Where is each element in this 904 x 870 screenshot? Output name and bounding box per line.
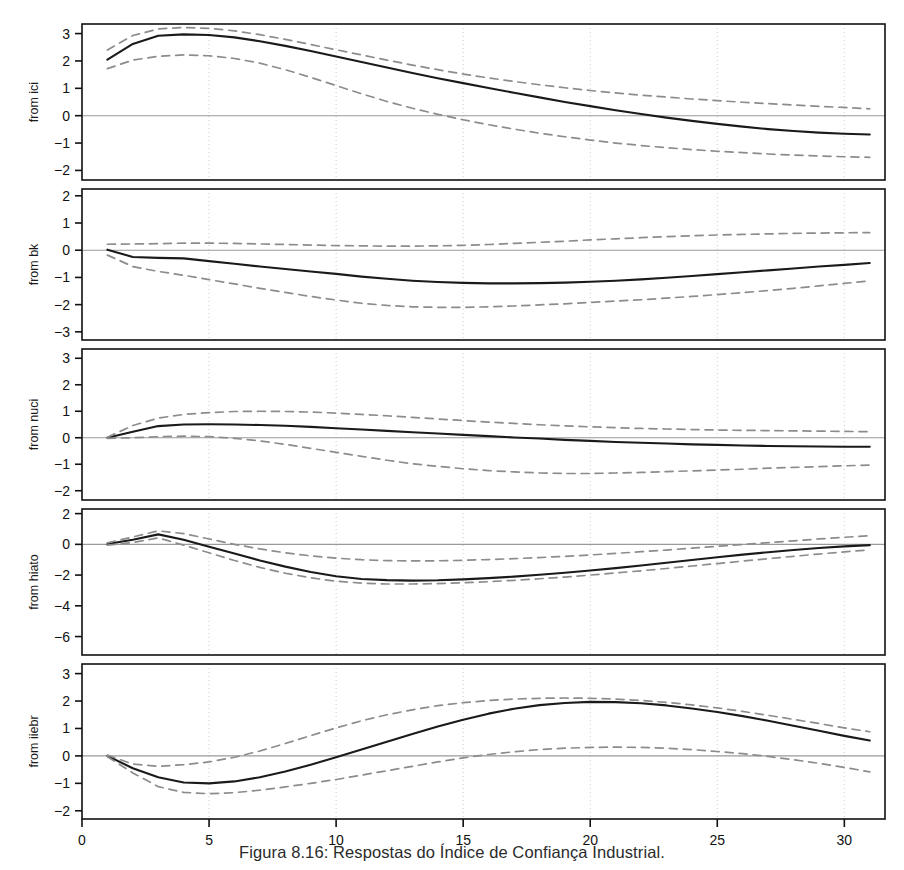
y-tick-label: 3 (62, 26, 70, 42)
y-tick-label: 3 (62, 350, 70, 366)
panel-label-from-iiebr: from iiebr (27, 715, 41, 767)
y-tick-label: −1 (54, 775, 70, 791)
y-tick-label: −2 (54, 162, 70, 178)
y-tick-label: 0 (62, 748, 70, 764)
y-tick-label: 0 (62, 536, 70, 552)
y-tick-label: −4 (54, 598, 70, 614)
y-tick-label: 1 (62, 215, 70, 231)
y-tick-label: 1 (62, 80, 70, 96)
panel-label-from-bk: from bk (27, 243, 41, 285)
y-tick-label: −3 (54, 324, 70, 340)
figure-caption: Figura 8.16: Respostas do Índice de Conf… (0, 843, 904, 862)
y-tick-label: 2 (62, 188, 70, 204)
y-tick-label: 2 (62, 506, 70, 522)
panel-label-from-ici: from ici (27, 82, 41, 122)
y-tick-label: 3 (62, 666, 70, 682)
y-tick-label: −2 (54, 483, 70, 499)
y-tick-label: −1 (54, 269, 70, 285)
y-tick-label: −2 (54, 803, 70, 819)
y-tick-label: −2 (54, 297, 70, 313)
y-tick-label: 0 (62, 108, 70, 124)
y-tick-label: 1 (62, 403, 70, 419)
impulse-response-plot: 3210−1−2from ici210−1−2−3from bk3210−1−2… (0, 0, 904, 870)
panel-label-from-nuci: from nuci (27, 399, 41, 450)
figure-container: 3210−1−2from ici210−1−2−3from bk3210−1−2… (0, 0, 904, 870)
y-tick-label: 1 (62, 720, 70, 736)
y-tick-label: −2 (54, 567, 70, 583)
y-tick-label: −1 (54, 456, 70, 472)
y-tick-label: 2 (62, 377, 70, 393)
y-tick-label: 2 (62, 53, 70, 69)
panel-from-bk: 210−1−2−3from bk (27, 188, 885, 340)
panel-label-from-hiato: from hiato (27, 554, 41, 610)
panel-from-ici: 3210−1−2from ici (27, 24, 885, 180)
y-tick-label: 2 (62, 693, 70, 709)
y-tick-label: 0 (62, 242, 70, 258)
y-tick-label: 0 (62, 430, 70, 446)
panel-from-nuci: 3210−1−2from nuci (27, 349, 885, 500)
y-tick-label: −6 (54, 629, 70, 645)
panel-from-hiato: 20−2−4−6from hiato (27, 506, 885, 655)
y-tick-label: −1 (54, 135, 70, 151)
panel-from-iiebr: 3210−1−2from iiebr (27, 664, 885, 819)
